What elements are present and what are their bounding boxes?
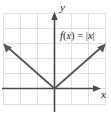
curve-left-segment xyxy=(9,48,55,89)
curve-right-segment xyxy=(55,48,101,89)
x-axis-label: x xyxy=(100,88,106,100)
curve-left-branch xyxy=(3,44,54,89)
function-equals: = xyxy=(75,30,86,41)
curve-right-branch xyxy=(55,44,106,89)
graph-canvas: y x xyxy=(0,0,111,114)
y-axis xyxy=(51,12,58,112)
absolute-value-graph-figure: y x f(x) = |x| xyxy=(0,0,111,114)
abs-bar-close: | xyxy=(93,30,95,41)
y-axis-label: y xyxy=(59,1,65,13)
curve-right-arrow-icon xyxy=(97,44,106,53)
curve-left-arrow-icon xyxy=(3,44,12,53)
x-axis-arrow-icon xyxy=(93,85,101,92)
function-label: f(x) = |x| xyxy=(60,31,95,42)
